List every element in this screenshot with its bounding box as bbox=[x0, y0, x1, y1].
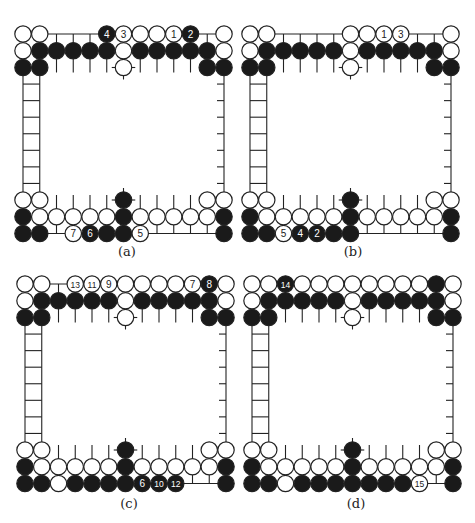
white-stone bbox=[201, 442, 217, 458]
white-stone bbox=[48, 209, 64, 225]
white-stone bbox=[445, 276, 461, 292]
white-stone bbox=[199, 209, 215, 225]
white-stone bbox=[294, 459, 310, 475]
white-stone bbox=[342, 43, 358, 59]
white-stone bbox=[311, 276, 327, 292]
white-stone bbox=[15, 192, 31, 208]
black-stone-move-2: 2 bbox=[309, 225, 325, 241]
black-stone bbox=[117, 442, 133, 458]
move-number: 5 bbox=[137, 228, 143, 239]
black-stone bbox=[359, 43, 375, 59]
black-stone bbox=[99, 225, 115, 241]
white-stone bbox=[275, 209, 291, 225]
black-stone-move-12: 12 bbox=[168, 475, 184, 491]
black-stone bbox=[67, 475, 83, 491]
move-number: 9 bbox=[106, 279, 112, 290]
black-stone bbox=[82, 43, 98, 59]
caption-b: (b) bbox=[333, 244, 373, 259]
black-stone bbox=[292, 43, 308, 59]
black-stone bbox=[117, 475, 133, 491]
black-stone bbox=[216, 209, 232, 225]
white-stone bbox=[218, 442, 234, 458]
black-stone bbox=[218, 459, 234, 475]
white-stone bbox=[411, 276, 427, 292]
white-stone bbox=[261, 276, 277, 292]
black-stone bbox=[361, 475, 377, 491]
white-stone bbox=[17, 442, 33, 458]
black-stone bbox=[311, 475, 327, 491]
black-stone bbox=[149, 43, 165, 59]
white-stone bbox=[428, 459, 444, 475]
white-stone bbox=[149, 209, 165, 225]
black-stone bbox=[166, 43, 182, 59]
black-stone bbox=[261, 475, 277, 491]
black-stone bbox=[342, 209, 358, 225]
black-stone bbox=[244, 475, 260, 491]
white-stone bbox=[182, 209, 198, 225]
white-stone bbox=[344, 293, 360, 309]
move-number: 12 bbox=[171, 479, 181, 489]
black-stone bbox=[328, 293, 344, 309]
white-stone bbox=[261, 459, 277, 475]
black-stone bbox=[17, 309, 33, 325]
white-stone bbox=[426, 209, 442, 225]
white-stone bbox=[359, 26, 375, 42]
black-stone bbox=[311, 293, 327, 309]
white-stone bbox=[445, 293, 461, 309]
white-stone bbox=[242, 26, 258, 42]
black-stone bbox=[17, 459, 33, 475]
white-stone bbox=[277, 475, 293, 491]
white-stone bbox=[395, 459, 411, 475]
white-stone bbox=[149, 26, 165, 42]
black-stone-move-2: 2 bbox=[182, 26, 198, 42]
black-stone bbox=[428, 309, 444, 325]
white-stone bbox=[443, 26, 459, 42]
black-stone bbox=[395, 293, 411, 309]
black-stone bbox=[361, 293, 377, 309]
white-stone bbox=[328, 276, 344, 292]
black-stone bbox=[117, 459, 133, 475]
black-stone bbox=[428, 276, 444, 292]
white-stone bbox=[99, 209, 115, 225]
white-stone-move-3: 3 bbox=[115, 26, 131, 42]
white-stone-move-1: 1 bbox=[166, 26, 182, 42]
white-stone bbox=[259, 26, 275, 42]
black-stone bbox=[342, 192, 358, 208]
move-number: 5 bbox=[281, 228, 287, 239]
white-stone bbox=[328, 459, 344, 475]
white-stone bbox=[115, 43, 131, 59]
black-stone bbox=[428, 293, 444, 309]
white-stone bbox=[376, 209, 392, 225]
white-stone bbox=[101, 459, 117, 475]
black-stone bbox=[216, 59, 232, 75]
black-stone bbox=[201, 293, 217, 309]
white-stone bbox=[244, 442, 260, 458]
move-number: 15 bbox=[415, 479, 425, 489]
black-stone bbox=[294, 475, 310, 491]
white-stone bbox=[378, 276, 394, 292]
white-stone bbox=[168, 459, 184, 475]
white-stone bbox=[294, 276, 310, 292]
black-stone bbox=[378, 475, 394, 491]
white-stone bbox=[117, 276, 133, 292]
black-stone bbox=[395, 475, 411, 491]
black-stone bbox=[32, 225, 48, 241]
black-stone bbox=[201, 309, 217, 325]
black-stone bbox=[84, 475, 100, 491]
black-stone bbox=[261, 293, 277, 309]
black-stone bbox=[445, 309, 461, 325]
white-stone bbox=[259, 192, 275, 208]
black-stone bbox=[443, 209, 459, 225]
black-stone bbox=[376, 43, 392, 59]
black-stone bbox=[244, 309, 260, 325]
white-stone bbox=[292, 209, 308, 225]
black-stone bbox=[344, 442, 360, 458]
board-panel-b: 13542 bbox=[242, 26, 459, 242]
black-stone bbox=[328, 475, 344, 491]
black-stone bbox=[218, 475, 234, 491]
go-diagram-figure: 4312765135421311978610121415 (a) (b) (c)… bbox=[0, 0, 475, 523]
white-stone bbox=[309, 209, 325, 225]
move-number: 6 bbox=[139, 478, 145, 489]
move-number: 2 bbox=[314, 228, 320, 239]
white-stone bbox=[50, 475, 66, 491]
